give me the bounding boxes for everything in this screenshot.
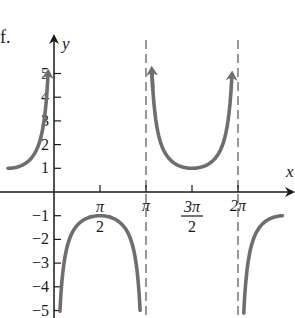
curve-branch-2 xyxy=(152,72,232,169)
y-axis-label: y xyxy=(60,34,70,53)
x-tick-label-denominator: 2 xyxy=(188,218,196,235)
x-tick-label-numerator: 3π xyxy=(183,198,201,215)
curve-arrow-up xyxy=(152,70,153,89)
x-tick-label-numerator: π xyxy=(96,198,105,215)
asymptote-lines xyxy=(146,40,238,318)
curve-branch-3 xyxy=(244,216,283,314)
x-tick-label: 2π xyxy=(230,197,247,214)
y-tick-label: −1 xyxy=(32,207,49,224)
y-tick-label: −3 xyxy=(32,254,49,271)
y-tick-label: −2 xyxy=(32,230,49,247)
x-tick-label-denominator: 2 xyxy=(96,218,104,235)
x-tick-label: π xyxy=(142,197,151,214)
y-tick-label: 1 xyxy=(41,159,49,176)
y-tick-label: −5 xyxy=(32,302,49,318)
x-axis-label: x xyxy=(285,162,294,181)
chart-plot-area: xy 54321−1−2−3−4−5π2π3π22π xyxy=(0,0,295,318)
y-tick-label: −4 xyxy=(32,278,49,295)
